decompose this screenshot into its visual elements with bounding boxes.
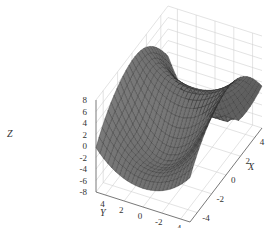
z-tick: -2 bbox=[80, 153, 88, 163]
x-tick: -4 bbox=[202, 213, 210, 223]
y-axis-label: Y bbox=[100, 207, 107, 218]
y-tick: -2 bbox=[155, 217, 163, 227]
y-axis-ticks: 420-2-4 bbox=[100, 199, 182, 228]
y-tick: 2 bbox=[119, 205, 124, 215]
z-tick: -8 bbox=[80, 187, 88, 197]
z-tick: 0 bbox=[83, 141, 88, 151]
surface-mesh bbox=[96, 46, 262, 191]
y-tick: -4 bbox=[174, 223, 182, 228]
z-tick: -4 bbox=[80, 164, 88, 174]
x-tick: 4 bbox=[260, 137, 265, 147]
y-tick: 0 bbox=[138, 211, 143, 221]
z-tick: 2 bbox=[83, 130, 88, 140]
z-tick: 4 bbox=[83, 118, 88, 128]
z-tick: 8 bbox=[83, 95, 88, 105]
z-tick: 6 bbox=[83, 107, 88, 117]
x-tick: -2 bbox=[217, 194, 225, 204]
z-axis-label: Z bbox=[7, 128, 13, 139]
z-tick: -6 bbox=[80, 176, 88, 186]
x-tick: 0 bbox=[231, 175, 236, 185]
z-axis-ticks: 86420-2-4-6-8 bbox=[80, 95, 88, 197]
surface-plot: 86420-2-4-6-8 420-2-4 -4-2024 Z Y X bbox=[0, 0, 268, 228]
x-axis-label: X bbox=[247, 161, 255, 172]
